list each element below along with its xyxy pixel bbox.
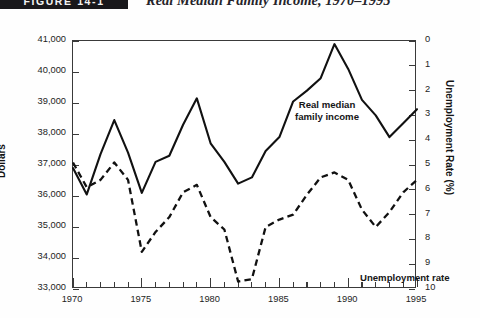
left-tick-label: 38,000 — [20, 127, 66, 137]
right-tick-label: 0 — [425, 34, 430, 44]
figure-root: FIGURE 14-1 Real Median Family Income, 1… — [0, 0, 480, 318]
income-annotation-line2: family income — [295, 111, 359, 122]
unemployment-series-annotation: Unemployment rate — [360, 272, 450, 284]
left-tick-label: 35,000 — [20, 220, 66, 230]
x-tick-label: 1995 — [406, 294, 427, 304]
right-tick-label: 1 — [425, 59, 430, 69]
x-tick-label: 1985 — [268, 294, 289, 304]
series-layer — [73, 41, 417, 289]
x-tick-label: 1990 — [337, 294, 358, 304]
x-tick-label: 1975 — [130, 294, 151, 304]
right-tick-label: 2 — [425, 84, 430, 94]
right-axis-title: Unemployment Rate (%) — [444, 80, 455, 195]
left-tick-label: 34,000 — [20, 251, 66, 261]
left-tick-label: 37,000 — [20, 158, 66, 168]
left-tick-label: 39,000 — [20, 96, 66, 106]
x-tick-label: 1970 — [62, 294, 83, 304]
income-series-annotation: Real median family income — [295, 99, 359, 122]
right-tick-label: 7 — [425, 208, 430, 218]
left-tick-label: 40,000 — [20, 65, 66, 75]
right-tick-label: 3 — [425, 108, 430, 118]
x-tick-label: 1980 — [199, 294, 220, 304]
income-annotation-line1: Real median — [299, 99, 356, 110]
right-tick-label: 8 — [425, 232, 430, 242]
figure-header: FIGURE 14-1 Real Median Family Income, 1… — [0, 0, 480, 10]
left-tick-label: 36,000 — [20, 189, 66, 199]
figure-title: Real Median Family Income, 1970–1995 — [146, 0, 390, 9]
income-line — [73, 44, 417, 194]
right-tick-label: 9 — [425, 257, 430, 267]
right-tick-label: 6 — [425, 183, 430, 193]
right-tick-label: 4 — [425, 133, 430, 143]
left-tick-label: 41,000 — [20, 34, 66, 44]
plot-area: Real median family income Unemployment r… — [72, 40, 416, 288]
figure-number-tag: FIGURE 14-1 — [0, 0, 128, 9]
left-tick-label: 33,000 — [20, 282, 66, 292]
left-axis-title: Dollars — [0, 144, 7, 178]
right-tick-label: 10 — [425, 282, 435, 292]
right-tick-label: 5 — [425, 158, 430, 168]
